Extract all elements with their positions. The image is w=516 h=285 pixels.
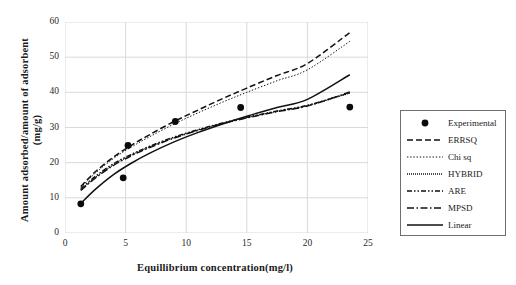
legend-label: HYBRID [445,169,483,179]
legend-item-experimental[interactable]: Experimental [401,114,505,131]
legend-key-dash-dot-icon [405,202,445,214]
legend-key-dash-dot-dot-icon [405,185,445,197]
legend-item-mpsd[interactable]: MPSD [401,199,505,216]
plot-area [65,22,368,233]
legend-key-dotted-icon [405,151,445,163]
legend-key-fine-dotted-icon [405,168,445,180]
series-linear [81,75,350,204]
data-point [237,104,244,111]
series-chi-sq [81,41,350,187]
legend-item-are[interactable]: ARE [401,182,505,199]
x-tick-20: 20 [294,238,320,248]
y-tick-60: 60 [33,16,59,26]
data-point [172,118,179,125]
legend-label: Chi sq [445,152,471,162]
x-tick-15: 15 [234,238,260,248]
legend-label: ERRSQ [445,135,477,145]
x-axis-title: Equillibrium concentration(mg/l) [60,262,370,273]
y-tick-0: 0 [33,227,59,237]
y-tick-40: 40 [33,86,59,96]
data-point [77,200,84,207]
legend-key-marker-icon [405,117,445,129]
legend-item-chi-sq[interactable]: Chi sq [401,148,505,165]
x-tick-0: 0 [52,238,78,248]
legend-label: Experimental [445,118,496,128]
series-errsq [81,33,350,187]
legend-label: MPSD [445,203,473,213]
chart-figure: Amount adsorbed/amount of adsorbent (mg/… [0,0,516,285]
y-tick-10: 10 [33,192,59,202]
data-point [346,104,353,111]
x-tick-5: 5 [113,238,139,248]
legend-key-dashed-icon [405,134,445,146]
legend-label: Linear [445,220,471,230]
legend-item-linear[interactable]: Linear [401,216,505,233]
legend-key-solid-icon [405,219,445,231]
x-tick-10: 10 [173,238,199,248]
y-axis-title-line1: Amount adsorbed/amount of adsorbent [19,38,30,222]
legend: ExperimentalERRSQChi sqHYBRIDAREMPSDLine… [400,110,506,236]
legend-label: ARE [445,186,466,196]
y-tick-50: 50 [33,51,59,61]
legend-item-errsq[interactable]: ERRSQ [401,131,505,148]
legend-item-hybrid[interactable]: HYBRID [401,165,505,182]
y-tick-20: 20 [33,157,59,167]
series-are [81,93,350,189]
data-point [125,142,132,149]
data-point [120,174,127,181]
x-tick-25: 25 [355,238,381,248]
y-tick-30: 30 [33,122,59,132]
